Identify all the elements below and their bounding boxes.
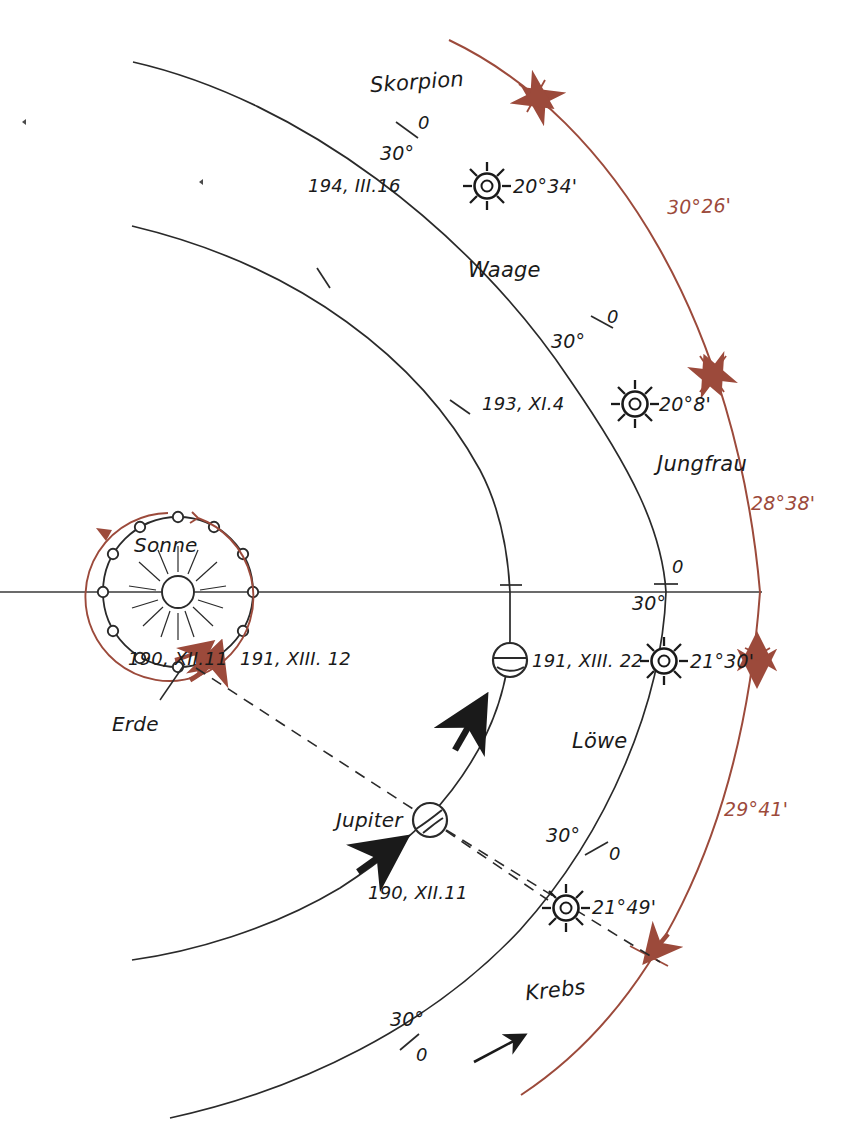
jupiter-symbol-190 [413,803,447,837]
sun-position-symbol-1 [463,162,511,210]
sun-date-skorpion: 194, III.16 [308,175,401,196]
sun-position-symbol-2 [611,380,659,428]
diagram-canvas: Skorpion Waage Jungfrau Löwe Krebs 0 30°… [0,0,848,1146]
scale-thirty-skorpion: 30° [380,142,414,164]
scale-zero-waage: 0 [607,306,619,327]
sun-value-jungfrau: 20°8' [659,393,711,415]
zodiac-label-loewe: Löwe [572,729,627,753]
sun-ecliptic-arc [133,62,666,1118]
scale-thirty-waage: 30° [551,330,585,352]
scale-zero-jungfrau: 0 [672,556,684,577]
sun-position-symbol-3 [640,637,688,685]
jupiter-arc-scale-ticks [317,268,522,585]
sun-value-loewe: 21°30' [690,650,754,672]
sun-position-symbol-4 [542,884,590,932]
sun-value-krebs: 21°49' [592,896,656,918]
jupiter-date-191: 191, XIII. 22 [532,650,643,671]
zodiac-label-waage: Waage [468,258,541,282]
erde-leader-line [160,665,184,700]
jupiter-label: Jupiter [336,808,403,832]
scale-zero-skorpion: 0 [418,112,430,133]
sun-value-skorpion: 20°34' [513,175,577,197]
diagram-vector-layer [0,0,848,1146]
sun-date-jungfrau: 193, XI.4 [482,393,564,414]
red-measure-1: 30°26' [667,194,732,218]
zodiac-label-jungfrau: Jungfrau [657,452,747,476]
stray-ink-mark [22,119,203,185]
scale-thirty-krebs: 30° [390,1008,424,1030]
scale-zero-loewe: 0 [609,843,621,864]
sonne-label: Sonne [134,533,198,557]
scale-thirty-jungfrau: 30° [632,592,666,614]
red-measure-2: 28°38' [751,492,815,514]
red-measure-3: 29°41' [724,798,788,820]
erde-label: Erde [112,712,159,736]
earth-date-190: 190, XII.11 [128,648,228,669]
earth-date-191: 191, XIII. 12 [240,648,351,669]
scale-zero-krebs: 0 [416,1044,428,1065]
scale-thirty-loewe: 30° [546,824,580,846]
jupiter-symbol-191 [493,643,527,677]
jupiter-date-190: 190, XII.11 [368,882,468,903]
sun-symbol [129,546,226,640]
